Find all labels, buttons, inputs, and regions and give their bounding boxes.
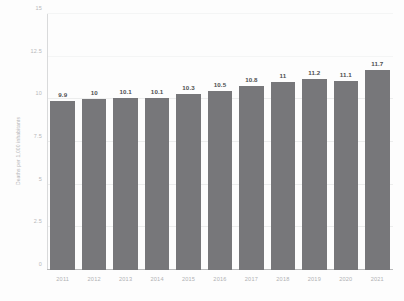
bar-value-label: 10.1 bbox=[151, 88, 163, 95]
bar-group[interactable]: 10.32015 bbox=[176, 14, 201, 270]
chart-page: Deaths per 1,000 inhabitants 02.557.5101… bbox=[0, 0, 404, 301]
bar-series: 9.9201110201210.1201310.1201410.3201510.… bbox=[47, 14, 393, 270]
x-axis-tick-label: 2020 bbox=[339, 276, 352, 282]
bar-value-label: 10.8 bbox=[245, 76, 257, 83]
y-axis-tick-label: 5 bbox=[39, 176, 42, 182]
bar-group[interactable]: 10.52016 bbox=[208, 14, 233, 270]
y-axis-title: Deaths per 1,000 inhabitants bbox=[15, 116, 21, 184]
bar[interactable] bbox=[208, 91, 233, 270]
bar-group[interactable]: 9.92011 bbox=[50, 14, 75, 270]
bar[interactable] bbox=[113, 98, 138, 270]
x-axis-tick-label: 2015 bbox=[182, 276, 195, 282]
bar-group[interactable]: 10.12013 bbox=[113, 14, 138, 270]
bar-group[interactable]: 11.12020 bbox=[334, 14, 359, 270]
y-axis-tick-label: 2.5 bbox=[34, 218, 42, 224]
x-axis-tick-label: 2011 bbox=[56, 276, 69, 282]
bar-group[interactable]: 10.12014 bbox=[145, 14, 170, 270]
y-axis-tick-label: 15 bbox=[35, 5, 42, 11]
plot-area: 02.557.51012.515 9.9201110201210.1201310… bbox=[47, 14, 393, 270]
x-axis-tick-label: 2014 bbox=[150, 276, 163, 282]
bar-value-label: 11.7 bbox=[371, 60, 383, 67]
bar[interactable] bbox=[271, 82, 296, 270]
bar[interactable] bbox=[176, 94, 201, 270]
bar[interactable] bbox=[302, 79, 327, 270]
bar[interactable] bbox=[334, 81, 359, 270]
bar-value-label: 10.5 bbox=[214, 81, 226, 88]
x-axis-tick-label: 2012 bbox=[88, 276, 101, 282]
x-axis-tick-label: 2017 bbox=[245, 276, 258, 282]
bar[interactable] bbox=[50, 101, 75, 270]
bar-value-label: 9.9 bbox=[58, 91, 67, 98]
bar-group[interactable]: 11.72021 bbox=[365, 14, 390, 270]
bar[interactable] bbox=[82, 99, 107, 270]
bar-value-label: 10 bbox=[91, 89, 98, 96]
x-axis-tick-label: 2018 bbox=[276, 276, 289, 282]
bar-value-label: 11.1 bbox=[340, 71, 352, 78]
x-axis-tick-label: 2021 bbox=[371, 276, 384, 282]
bar-group[interactable]: 11.22019 bbox=[302, 14, 327, 270]
bar[interactable] bbox=[365, 70, 390, 270]
bar-group[interactable]: 10.82017 bbox=[239, 14, 264, 270]
bar[interactable] bbox=[239, 86, 264, 270]
bar[interactable] bbox=[145, 98, 170, 270]
y-axis-tick-label: 7.5 bbox=[34, 133, 42, 139]
bar-value-label: 10.3 bbox=[182, 84, 194, 91]
x-axis-tick-label: 2019 bbox=[308, 276, 321, 282]
y-axis-tick-label: 12.5 bbox=[30, 48, 42, 54]
x-axis-tick-label: 2013 bbox=[119, 276, 132, 282]
bar-value-label: 11 bbox=[280, 72, 287, 79]
x-axis-tick-label: 2016 bbox=[213, 276, 226, 282]
bar-value-label: 10.1 bbox=[119, 88, 131, 95]
bar-group[interactable]: 112018 bbox=[271, 14, 296, 270]
bar-value-label: 11.2 bbox=[308, 69, 320, 76]
y-axis-tick-label: 0 bbox=[39, 261, 42, 267]
y-axis-tick-label: 10 bbox=[35, 90, 42, 96]
bar-group[interactable]: 102012 bbox=[82, 14, 107, 270]
